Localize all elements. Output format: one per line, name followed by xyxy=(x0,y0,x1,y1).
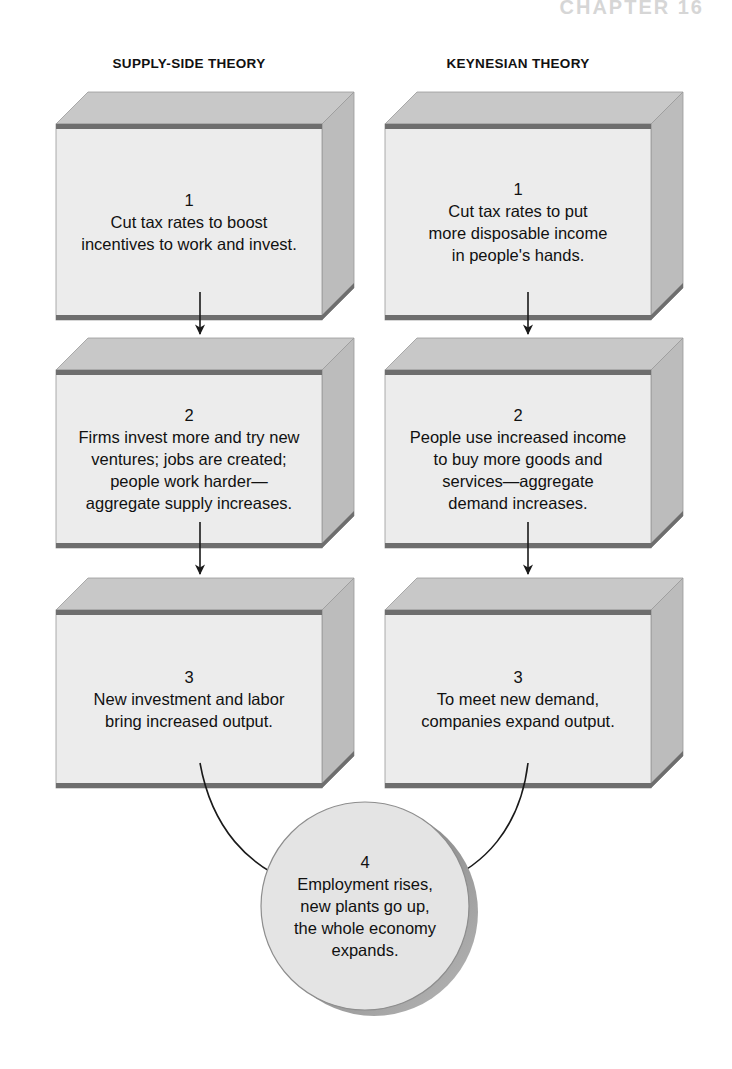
diagram-page: CHAPTER 16 SUPPLY-SIDE THEORY KEYNESIAN … xyxy=(0,0,732,1069)
flow-box-text: Cut tax rates to put more disposable inc… xyxy=(385,200,651,266)
flow-box-step-number: 3 xyxy=(56,666,322,688)
flow-box-step-number: 2 xyxy=(56,404,322,426)
running-head: CHAPTER 16 xyxy=(560,0,704,19)
flow-box-text: New investment and labor bring increased… xyxy=(56,688,322,732)
flow-box-step-number: 2 xyxy=(385,404,651,426)
flow-box-supply-side-step-1: 1Cut tax rates to boost incentives to wo… xyxy=(56,92,322,288)
flow-box-keynesian-step-3: 3To meet new demand, companies expand ou… xyxy=(385,578,651,756)
outcome-disk: 4Employment rises, new plants go up, the… xyxy=(247,788,483,1024)
outcome-disk-step-number: 4 xyxy=(247,851,483,873)
flow-box-text: To meet new demand, companies expand out… xyxy=(385,688,651,732)
flow-box-step-number: 1 xyxy=(56,189,322,211)
column-title-supply-side: SUPPLY-SIDE THEORY xyxy=(56,56,322,71)
flow-box-keynesian-step-1: 1Cut tax rates to put more disposable in… xyxy=(385,92,651,288)
flow-box-text: Firms invest more and try new ventures; … xyxy=(56,426,322,514)
flow-box-step-number: 1 xyxy=(385,178,651,200)
flow-box-supply-side-step-3: 3New investment and labor bring increase… xyxy=(56,578,322,756)
flow-box-text: Cut tax rates to boost incentives to wor… xyxy=(56,211,322,255)
flow-box-text: People use increased income to buy more … xyxy=(385,426,651,514)
flow-box-keynesian-step-2: 2People use increased income to buy more… xyxy=(385,338,651,516)
flow-box-step-number: 3 xyxy=(385,666,651,688)
flow-box-supply-side-step-2: 2Firms invest more and try new ventures;… xyxy=(56,338,322,516)
column-title-keynesian: KEYNESIAN THEORY xyxy=(385,56,651,71)
outcome-disk-text: Employment rises, new plants go up, the … xyxy=(247,873,483,961)
